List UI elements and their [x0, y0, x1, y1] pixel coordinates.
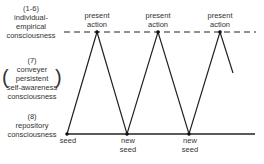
seed-label: seed — [58, 137, 78, 146]
present-action-dot — [218, 30, 222, 34]
new-seed-label: new seed — [118, 137, 138, 154]
new-seed-label: new seed — [180, 137, 200, 154]
conveyer-zigzag-line — [67, 32, 233, 134]
present-action-label: present action — [205, 12, 235, 29]
present-action-dot — [156, 30, 160, 34]
present-action-label: present action — [143, 12, 173, 29]
present-action-dot — [95, 30, 99, 34]
present-action-label: present action — [82, 12, 112, 29]
